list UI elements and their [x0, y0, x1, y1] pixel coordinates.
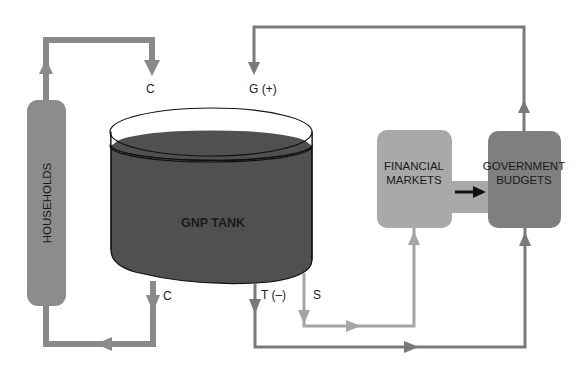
arrow-down-icon: [249, 299, 261, 314]
arrow-up-icon: [519, 232, 531, 246]
arrow-left-icon: [96, 337, 112, 351]
financial-markets-to-gov-connector: [445, 181, 495, 213]
flow-g-label: G (+): [249, 82, 277, 96]
flow-t-label: T (–): [261, 288, 286, 302]
gnp-tank: [110, 108, 312, 284]
arrow-right-icon: [404, 341, 419, 353]
financial-markets-label-line2: MARKETS: [386, 174, 442, 186]
circular-flow-diagram: HOUSEHOLDS C C GNP TANK G (+) T (–) S FI…: [0, 0, 579, 371]
flow-g-line: [254, 27, 524, 131]
flow-s-line: [304, 228, 414, 326]
arrow-down-icon: [146, 295, 160, 312]
government-budgets-label-line2: BUDGETS: [496, 174, 552, 186]
arrow-down-icon: [248, 62, 260, 75]
government-budgets-label-line1: GOVERNMENT: [483, 160, 565, 172]
financial-markets-label-line1: FINANCIAL: [384, 160, 445, 172]
arrow-up-icon: [408, 231, 420, 245]
flow-s-label: S: [313, 288, 321, 302]
flow-c-in-label: C: [146, 82, 155, 96]
arrow-right-icon: [346, 320, 361, 332]
flow-c-out-label: C: [163, 289, 172, 303]
arrow-down-icon: [144, 60, 160, 76]
arrow-up-icon: [518, 100, 530, 113]
arrow-down-icon: [298, 310, 310, 324]
households-label: HOUSEHOLDS: [41, 162, 53, 243]
gnp-tank-label: GNP TANK: [181, 216, 245, 230]
flow-c-to-tank-line: [46, 40, 152, 100]
arrow-up-icon: [39, 59, 53, 74]
